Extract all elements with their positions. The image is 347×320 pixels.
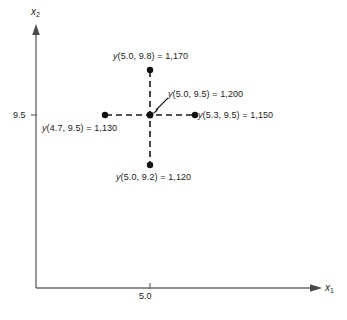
x-axis-label: x1 — [325, 282, 334, 293]
data-point-center — [147, 112, 154, 119]
point-label-left: y(4.7, 9.5) = 1,130 — [42, 123, 117, 133]
point-label-down: y(5.0, 9.2) = 1,120 — [116, 172, 191, 182]
point-label-center: y(5.0, 9.5) = 1,200 — [168, 89, 243, 99]
point-label-right: y(5.3, 9.5) = 1,150 — [198, 110, 273, 120]
x-axis-tick-label: 5.0 — [139, 291, 152, 301]
y-axis-label: x2 — [31, 6, 40, 17]
y-axis-tick-label: 9.5 — [13, 110, 26, 120]
data-point-down — [147, 162, 153, 168]
plot-canvas — [0, 0, 347, 320]
x-axis-arrowhead — [310, 284, 322, 292]
point-label-up: y(5.0, 9.8) = 1,170 — [113, 51, 188, 61]
chart-figure: x2 x1 9.5 5.0 y(5.0, 9.8) = 1,170 y(5.0,… — [0, 0, 347, 320]
y-axis-arrowhead — [32, 24, 40, 35]
callout-arrow-line — [156, 98, 168, 110]
data-point-left — [102, 112, 108, 118]
data-point-up — [147, 67, 153, 73]
